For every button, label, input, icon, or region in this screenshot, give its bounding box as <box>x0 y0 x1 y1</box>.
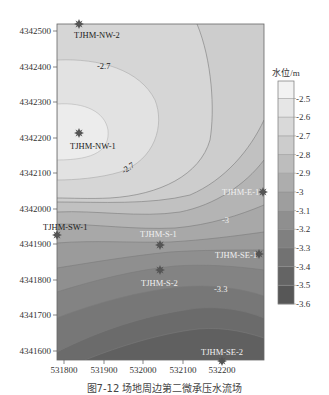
contour-chart: -2.7 -2.7 -3 -3.3 TJHM-NW-2 TJHM-NW-1 TJ… <box>0 0 329 395</box>
figure-caption: 图7-12 场地周边第二微承压水流场 <box>0 380 329 395</box>
y-tick-label: 4341600 <box>20 346 52 356</box>
colorbar-band <box>278 248 294 267</box>
y-tick-label: 4341800 <box>20 275 52 285</box>
x-tick-label: 532200 <box>209 365 237 375</box>
well-marker-nw2 <box>74 19 84 29</box>
colorbar-band <box>278 117 294 136</box>
contour-label: -3.3 <box>214 284 227 294</box>
x-axis: 531800 531900 532000 532100 532200 <box>51 360 237 375</box>
y-axis: 4342500 4342400 4342300 4342200 4342100 … <box>20 26 58 356</box>
colorbar-band <box>278 211 294 230</box>
colorbar-tick-label: -2.5 <box>296 94 311 104</box>
colorbar-title: 水位/m <box>272 67 300 78</box>
colorbar-tick-label: -3.4 <box>296 262 311 272</box>
y-tick-label: 4342200 <box>20 133 52 143</box>
contour-label: -2.7 <box>97 61 110 71</box>
colorbar-band <box>278 136 294 155</box>
y-tick-label: 4342300 <box>20 97 52 107</box>
well-label: TJHM-NW-1 <box>70 141 116 151</box>
y-tick-label: 4341700 <box>20 310 52 320</box>
well-label: TJHM-S-1 <box>140 229 177 239</box>
x-tick-label: 532100 <box>170 365 198 375</box>
well-label: TJHM-NW-2 <box>74 30 120 40</box>
colorbar-band <box>278 285 294 304</box>
colorbar-band <box>278 81 294 99</box>
colorbar-tick-label: -2.9 <box>296 168 311 178</box>
colorbar-tick-label: -3.1 <box>296 206 310 216</box>
y-tick-label: 4341900 <box>20 239 52 249</box>
colorbar-band <box>278 229 294 248</box>
y-tick-label: 4342100 <box>20 168 52 178</box>
x-tick-label: 531900 <box>91 365 119 375</box>
well-marker-e1 <box>258 187 268 197</box>
colorbar-tick-label: -2.7 <box>296 131 311 141</box>
colorbar-tick-label: -3.6 <box>296 299 311 309</box>
colorbar-tick-label: -3.3 <box>296 243 311 253</box>
well-label: TJHM-S-2 <box>141 278 178 288</box>
y-tick-label: 4342400 <box>20 62 52 72</box>
colorbar-bands <box>278 81 294 304</box>
y-tick-label: 4342000 <box>20 204 52 214</box>
x-tick-label: 531800 <box>51 365 79 375</box>
x-tick-label: 532000 <box>130 365 158 375</box>
colorbar-tick-label: -2.8 <box>296 150 311 160</box>
well-marker-s1 <box>155 240 165 250</box>
well-marker-s2 <box>155 265 165 275</box>
well-label: TJHM-SE-1 <box>215 250 257 260</box>
contour-label: -3 <box>222 215 229 225</box>
colorbar-tick-label: -3 <box>296 187 304 197</box>
colorbar-band <box>278 173 294 192</box>
well-label: TJHM-SE-2 <box>201 347 243 357</box>
well-label: TJHM-SW-1 <box>43 222 87 232</box>
colorbar-band <box>278 267 294 286</box>
colorbar-band <box>278 192 294 211</box>
colorbar-tick-label: -3.2 <box>296 224 310 234</box>
colorbar-tick-label: -2.6 <box>296 112 311 122</box>
well-marker-nw1 <box>74 128 84 138</box>
well-label: TJHM-E-1 <box>222 187 259 197</box>
colorbar: 水位/m -2.5-2.6-2.7-2.8-2.9-3-3.1-3.2-3.3-… <box>272 67 311 309</box>
colorbar-band <box>278 99 294 118</box>
colorbar-band <box>278 155 294 174</box>
y-tick-label: 4342500 <box>20 26 52 36</box>
colorbar-tick-label: -3.5 <box>296 280 311 290</box>
